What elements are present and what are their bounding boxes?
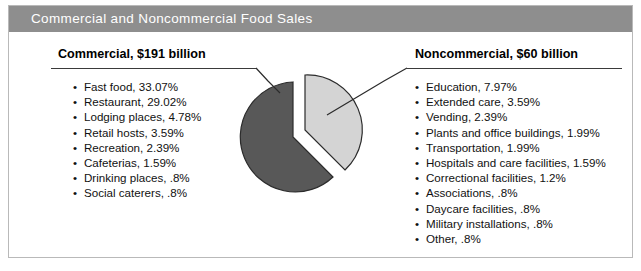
noncommercial-item-label: Daycare facilities, .8% [426, 202, 540, 215]
bullet-icon: • [73, 109, 77, 124]
figure-title-bar: Commercial and Noncommercial Food Sales [9, 6, 632, 32]
noncommercial-item-label: Education, 7.97% [426, 80, 517, 93]
chart-figure: Commercial and Noncommercial Food Sales … [0, 0, 641, 271]
noncommercial-list-item: •Military installations, .8% [415, 216, 606, 231]
commercial-item-label: Fast food, 33.07% [84, 80, 178, 93]
bullet-icon: • [73, 79, 77, 94]
noncommercial-heading: Noncommercial, $60 billion [415, 47, 578, 61]
noncommercial-list-item: •Daycare facilities, .8% [415, 201, 606, 216]
bullet-icon: • [73, 94, 77, 109]
noncommercial-list-item: •Vending, 2.39% [415, 109, 606, 124]
noncommercial-list-item: •Extended care, 3.59% [415, 94, 606, 109]
pie-slice-noncommercial [305, 75, 362, 170]
bullet-icon: • [415, 216, 419, 231]
bullet-icon: • [415, 140, 419, 155]
commercial-list-item: •Lodging places, 4.78% [73, 109, 201, 124]
bullet-icon: • [415, 155, 419, 170]
commercial-list-item: •Recreation, 2.39% [73, 140, 201, 155]
commercial-list-item: •Restaurant, 29.02% [73, 94, 201, 109]
bullet-icon: • [73, 185, 77, 200]
bullet-icon: • [415, 94, 419, 109]
noncommercial-heading-rule [407, 68, 622, 69]
noncommercial-list-item: •Education, 7.97% [415, 79, 606, 94]
noncommercial-item-label: Vending, 2.39% [426, 110, 507, 123]
figure-title: Commercial and Noncommercial Food Sales [31, 11, 313, 26]
noncommercial-item-label: Military installations, .8% [426, 217, 553, 230]
bullet-icon: • [73, 170, 77, 185]
bullet-icon: • [415, 201, 419, 216]
bullet-icon: • [415, 185, 419, 200]
commercial-item-label: Recreation, 2.39% [84, 141, 179, 154]
noncommercial-item-label: Extended care, 3.59% [426, 95, 540, 108]
noncommercial-list-item: •Hospitals and care facilities, 1.59% [415, 155, 606, 170]
noncommercial-item-label: Associations, .8% [426, 186, 518, 199]
commercial-item-label: Cafeterias, 1.59% [84, 156, 176, 169]
noncommercial-list-item: •Plants and office buildings, 1.99% [415, 125, 606, 140]
bullet-icon: • [415, 125, 419, 140]
noncommercial-item-label: Other, .8% [426, 232, 481, 245]
noncommercial-list-item: •Associations, .8% [415, 185, 606, 200]
commercial-item-list: •Fast food, 33.07%•Restaurant, 29.02%•Lo… [73, 79, 201, 201]
commercial-list-item: •Social caterers, .8% [73, 185, 201, 200]
commercial-list-item: •Fast food, 33.07% [73, 79, 201, 94]
commercial-item-label: Social caterers, .8% [84, 186, 187, 199]
bullet-icon: • [415, 109, 419, 124]
commercial-item-label: Drinking places, .8% [84, 171, 190, 184]
commercial-item-label: Lodging places, 4.78% [84, 110, 201, 123]
bullet-icon: • [73, 140, 77, 155]
noncommercial-item-label: Hospitals and care facilities, 1.59% [426, 156, 606, 169]
noncommercial-item-label: Plants and office buildings, 1.99% [426, 126, 600, 139]
commercial-list-item: •Retail hosts, 3.59% [73, 125, 201, 140]
commercial-heading-rule [51, 68, 256, 69]
commercial-item-label: Retail hosts, 3.59% [84, 126, 184, 139]
commercial-item-label: Restaurant, 29.02% [84, 95, 186, 108]
noncommercial-list-item: •Other, .8% [415, 231, 606, 246]
commercial-list-item: •Cafeterias, 1.59% [73, 155, 201, 170]
noncommercial-item-list: •Education, 7.97%•Extended care, 3.59%•V… [415, 79, 606, 246]
noncommercial-item-label: Transportation, 1.99% [426, 141, 540, 154]
commercial-heading: Commercial, $191 billion [58, 47, 206, 61]
bullet-icon: • [415, 231, 419, 246]
bullet-icon: • [73, 125, 77, 140]
figure-body: Commercial, $191 billion Noncommercial, … [9, 32, 632, 257]
noncommercial-item-label: Correctional facilities, 1.2% [426, 171, 566, 184]
noncommercial-list-item: •Transportation, 1.99% [415, 140, 606, 155]
noncommercial-list-item: •Correctional facilities, 1.2% [415, 170, 606, 185]
bullet-icon: • [415, 79, 419, 94]
commercial-list-item: •Drinking places, .8% [73, 170, 201, 185]
bullet-icon: • [73, 155, 77, 170]
bullet-icon: • [415, 170, 419, 185]
